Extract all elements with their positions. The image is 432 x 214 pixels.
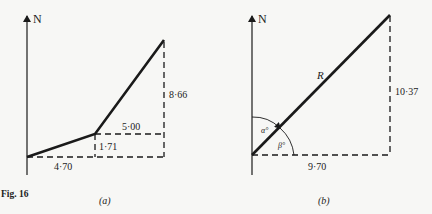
construction-lines-a [27, 42, 164, 157]
resultant-vector [252, 15, 390, 155]
label-1-71: 1·71 [99, 141, 117, 152]
north-label-a: N [33, 12, 42, 26]
panel-label-a: (a) [99, 195, 111, 207]
label-9-70: 9·70 [308, 161, 326, 172]
figure-caption: Fig. 16 [1, 189, 29, 199]
alpha-label: α° [261, 126, 269, 135]
panel-b: N R α° β° 10·37 9·70 (b) [252, 12, 418, 207]
label-10-37: 10·37 [395, 86, 418, 97]
panel-label-b: (b) [318, 195, 330, 207]
beta-label: β° [277, 141, 286, 150]
resultant-label: R [316, 69, 324, 81]
label-8-66: 8·66 [169, 89, 187, 100]
figure-16: N 8·66 5·00 1·71 4·70 Fig. 16 (a) N R α [0, 0, 432, 214]
north-label-b: N [258, 12, 267, 26]
label-5-00: 5·00 [122, 121, 140, 132]
label-4-70: 4·70 [54, 161, 72, 172]
panel-a: N 8·66 5·00 1·71 4·70 Fig. 16 (a) [1, 12, 187, 207]
